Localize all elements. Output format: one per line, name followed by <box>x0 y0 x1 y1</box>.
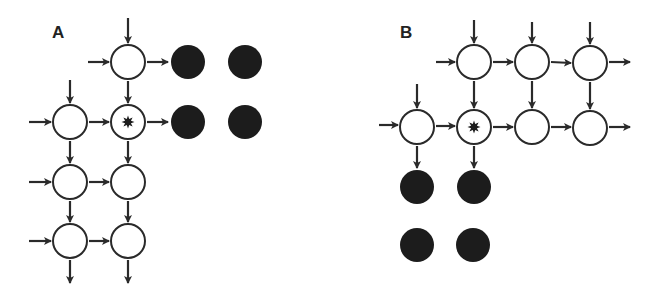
open-node <box>53 224 87 258</box>
filled-node <box>456 228 490 262</box>
filled-node <box>171 45 205 79</box>
star-icon <box>468 121 481 134</box>
open-node <box>400 110 434 144</box>
open-node <box>457 45 491 79</box>
filled-node <box>400 228 434 262</box>
panel-b-label: B <box>400 23 412 42</box>
filled-node <box>400 170 434 204</box>
star-icon <box>122 116 135 129</box>
panel-a: A <box>29 18 262 283</box>
filled-node <box>171 105 205 139</box>
open-node <box>573 111 607 145</box>
open-node <box>515 110 549 144</box>
open-node <box>573 46 607 80</box>
open-node <box>111 45 145 79</box>
panel-b: B <box>379 20 630 262</box>
open-node <box>111 224 145 258</box>
diagram-canvas: A B <box>0 0 654 292</box>
open-node <box>53 165 87 199</box>
open-node <box>111 165 145 199</box>
filled-node <box>228 105 262 139</box>
panel-a-label: A <box>52 23 64 42</box>
filled-node <box>228 45 262 79</box>
filled-node <box>457 170 491 204</box>
open-node <box>515 45 549 79</box>
grid-diagram: A B <box>0 0 654 292</box>
flow-arrow <box>551 62 571 63</box>
open-node <box>53 105 87 139</box>
